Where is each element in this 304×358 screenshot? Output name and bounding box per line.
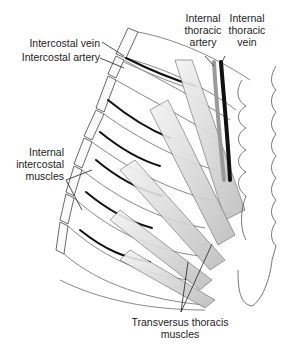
label-transversus-thoracis-muscles: Transversus thoracis muscles xyxy=(110,316,250,340)
label-internal-thoracic-vein: Internal thoracic vein xyxy=(222,12,272,48)
label-internal-thoracic-artery: Internal thoracic artery xyxy=(178,12,228,48)
label-intercostal-artery: Intercostal artery xyxy=(2,51,100,63)
label-intercostal-vein: Intercostal vein xyxy=(8,37,100,49)
sternum xyxy=(238,66,276,306)
label-internal-intercostal-muscles: Internal intercostal muscles xyxy=(4,146,64,182)
